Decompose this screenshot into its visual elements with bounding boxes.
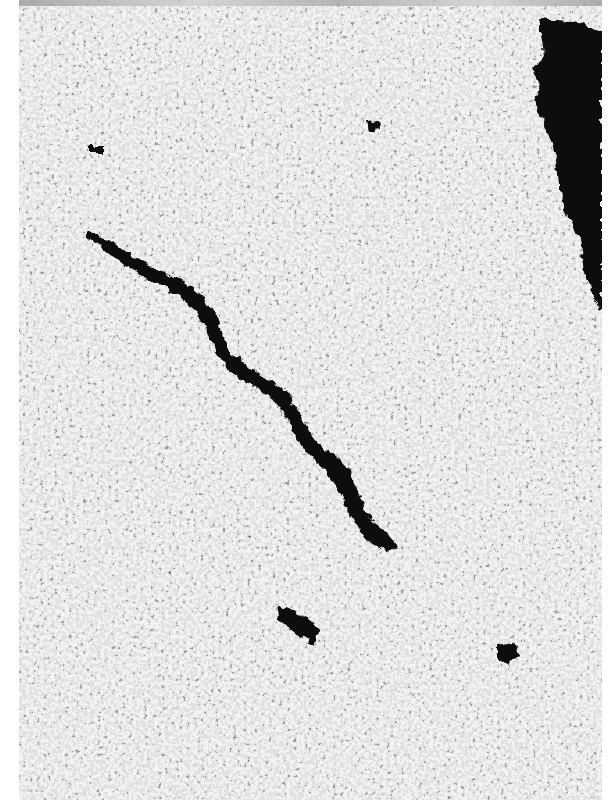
- top-edge-strip: [19, 0, 602, 6]
- micrograph-image: [19, 0, 602, 800]
- small-spot-top: [367, 120, 381, 132]
- small-spot-mid: [91, 146, 103, 154]
- particle-field: [19, 0, 602, 800]
- granular-texture: [19, 0, 602, 800]
